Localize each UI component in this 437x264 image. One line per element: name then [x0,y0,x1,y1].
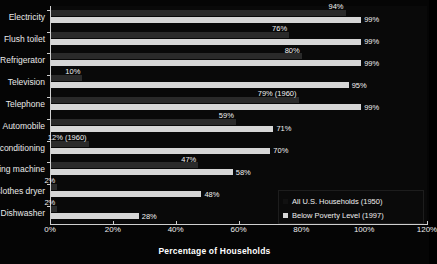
value-label: 99% [364,104,379,112]
legend-label-1997: Below Poverty Level (1997) [292,211,384,220]
bar-1997 [51,17,361,23]
category-label: Refrigerator [0,56,45,65]
x-tick-label: 20% [105,225,121,234]
value-label: 28% [142,213,157,221]
bar-1997 [51,191,201,197]
bar-1950 [51,53,302,59]
category-label: Clothes dryer [0,187,45,196]
value-label: 70% [273,147,288,155]
bar-1950 [51,162,198,168]
bar-1950 [51,119,236,125]
bar-1950 [51,32,289,38]
bar-1997 [51,126,273,132]
value-label: 76% [272,25,287,33]
x-tick-label: 60% [230,225,246,234]
chart-row: Flush toilet76%99% [51,28,427,50]
value-label: 80% [285,47,300,55]
legend-swatch-1997 [283,213,288,218]
category-label: Television [8,78,45,87]
category-label: Telephone [6,100,45,109]
x-tick-label: 40% [168,225,184,234]
category-label: Automobile [2,122,45,131]
bar-1997 [51,82,349,88]
value-label: 2% [44,177,55,185]
value-label: 79% (1960) [258,90,297,98]
chart-row: r conditioning12% (1960)70% [51,137,427,159]
x-tick-label: 80% [293,225,309,234]
value-label: 71% [276,125,291,133]
value-label: 95% [352,82,367,90]
value-label: 94% [329,3,344,11]
chart-row: hing machine47%58% [51,159,427,181]
category-label: r conditioning [0,144,45,153]
value-label: 47% [181,156,196,164]
value-label: 2% [44,199,55,207]
value-label: 59% [219,112,234,120]
value-label: 99% [364,60,379,68]
value-label: 48% [204,191,219,199]
legend-item-1950: All U.S. Households (1950) [283,194,419,208]
x-tick-label: 100% [354,225,374,234]
value-label: 58% [236,169,251,177]
category-label: Flush toilet [4,35,45,44]
bar-1997 [51,60,361,66]
category-label: Dishwasher [1,209,45,218]
value-label: 99% [364,16,379,24]
value-label: 10% [65,68,80,76]
bar-1997 [51,213,139,219]
chart-row: Automobile59%71% [51,115,427,137]
chart-row: Telephone79% (1960)99% [51,93,427,115]
chart-row: Television10%95% [51,71,427,93]
bar-1950 [51,10,346,16]
category-label: Electricity [9,13,45,22]
legend-swatch-1950 [283,199,288,204]
x-axis-title: Percentage of Households [0,246,429,256]
category-label: hing machine [0,165,45,174]
x-axis-ticks: 0%20%40%60%80%100%120% [50,225,427,243]
x-tick-label: 0% [44,225,56,234]
x-tick-label: 120% [417,225,437,234]
value-label: 12% (1960) [48,134,87,142]
chart-row: Refrigerator80%99% [51,50,427,72]
bar-1997 [51,39,361,45]
legend-item-1997: Below Poverty Level (1997) [283,208,419,222]
bar-1997 [51,104,361,110]
legend-label-1950: All U.S. Households (1950) [292,197,382,206]
value-label: 99% [364,38,379,46]
bar-1997 [51,169,233,175]
bar-1997 [51,148,270,154]
legend: All U.S. Households (1950) Below Poverty… [278,190,424,224]
chart-row: Electricity94%99% [51,6,427,28]
